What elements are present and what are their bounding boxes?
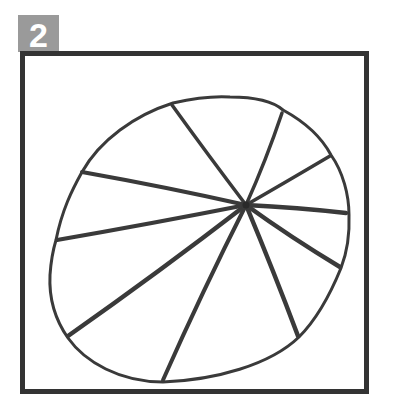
spoke-line — [68, 205, 246, 336]
spoke-line — [246, 113, 282, 205]
center-point — [243, 202, 250, 209]
spoke-line — [163, 205, 246, 380]
sketched-segmented-circle — [0, 0, 393, 407]
spoke-line — [82, 172, 246, 205]
spoke-line — [246, 156, 330, 205]
spoke-line — [57, 205, 246, 240]
spoke-line — [246, 205, 346, 213]
